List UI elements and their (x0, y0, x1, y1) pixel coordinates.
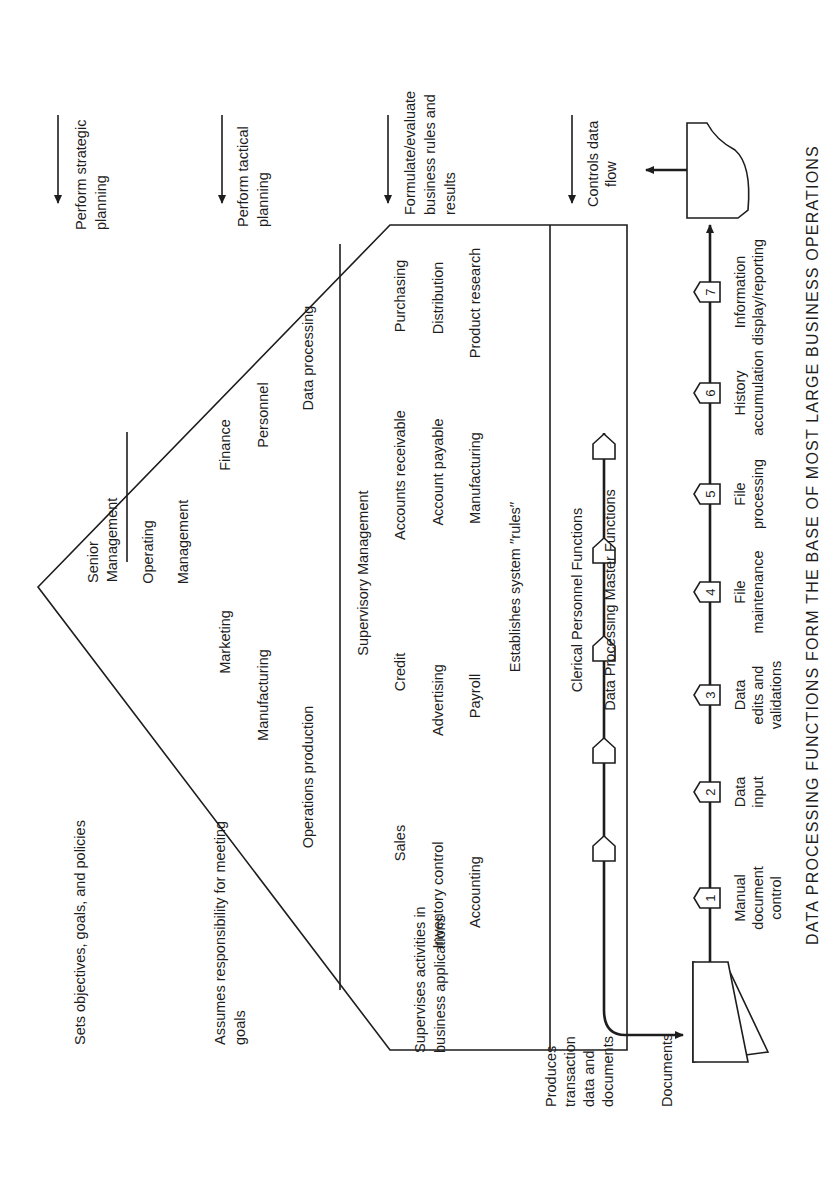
sup-item-purchasing: Purchasing (392, 260, 408, 333)
svg-text:4: 4 (703, 588, 718, 595)
svg-text:display/reporting: display/reporting (750, 239, 766, 345)
op-item-finance: Finance (217, 419, 233, 471)
desc-rules-1: Formulate/evaluate (402, 91, 418, 215)
pyramid-outline (38, 225, 627, 1050)
svg-text:validations: validations (768, 661, 784, 730)
desc-senior: Sets objectives, goals, and policies (72, 820, 88, 1045)
senior-title-1: Senior (85, 541, 101, 583)
desc-supervisory-2: business applications (432, 915, 448, 1053)
op-item-manufacturing: Manufacturing (255, 649, 271, 741)
desc-operating-2: goals (232, 1010, 248, 1045)
clerical-title: Clerical Personnel Functions (569, 508, 585, 693)
svg-text:Manual: Manual (732, 874, 748, 922)
operating-title-2: Management (175, 500, 191, 585)
operating-title-1: Operating (140, 520, 156, 584)
svg-text:5: 5 (703, 490, 718, 497)
sup-item-payroll: Payroll (467, 674, 483, 718)
supervisory-title: Supervisory Management (355, 490, 371, 655)
op-item-marketing: Marketing (217, 610, 233, 674)
op-item-operations-production: Operations production (300, 706, 316, 849)
sup-item-accounts-receivable: Accounts receivable (392, 410, 408, 540)
process-step-2: 2 Data input (694, 776, 766, 808)
diagram-canvas: Senior Management Operating Management M… (0, 0, 835, 1200)
svg-text:input: input (750, 776, 766, 807)
sup-item-advertising: Advertising (430, 664, 446, 736)
rules-note: Establishes system ′′rules′′ (507, 502, 523, 673)
dp-master-title: Data Processing Master Functions (602, 489, 618, 711)
desc-clerical-1: Produces (543, 1046, 559, 1107)
desc-strategic-1: Perform strategic (73, 120, 89, 230)
desc-rules-2: business rules and (422, 94, 438, 215)
desc-tactical-1: Perform tactical (235, 126, 251, 227)
desc-control-1: Controls data (585, 120, 601, 207)
sup-item-account-payable: Account payable (430, 418, 446, 525)
desc-supervisory-1: Supervises activities in (412, 906, 428, 1053)
sup-item-product-research: Product research (467, 248, 483, 358)
desc-operating-1: Assumes responsibility for meeting (212, 821, 228, 1045)
svg-text:7: 7 (703, 288, 718, 295)
svg-text:maintenance: maintenance (750, 550, 766, 633)
svg-text:control: control (768, 876, 784, 920)
svg-text:edits and: edits and (750, 666, 766, 725)
desc-rules-3: results (442, 172, 458, 215)
desc-strategic-2: planning (93, 175, 109, 230)
process-step-6: 6 History accumulation (694, 350, 766, 435)
sup-item-credit: Credit (392, 653, 408, 692)
sup-item-sales: Sales (392, 825, 408, 861)
sup-item-distribution: Distribution (430, 262, 446, 335)
svg-text:processing: processing (750, 459, 766, 529)
svg-text:File: File (732, 482, 748, 505)
svg-text:2: 2 (703, 788, 718, 795)
svg-text:History: History (732, 370, 748, 416)
business-operations-diagram: Senior Management Operating Management M… (0, 0, 835, 1200)
svg-text:6: 6 (703, 389, 718, 396)
svg-text:Data: Data (732, 776, 748, 808)
sup-item-accounting: Accounting (467, 856, 483, 928)
rotated-figure: Senior Management Operating Management M… (38, 91, 821, 1107)
figure-caption: DATA PROCESSING FUNCTIONS FORM THE BASE … (804, 145, 821, 945)
process-step-7: 7 Information display/reporting (694, 239, 766, 345)
desc-clerical-3: data and (581, 1051, 597, 1107)
svg-text:accumulation: accumulation (750, 350, 766, 435)
sup-item-manufacturing: Manufacturing (467, 432, 483, 524)
senior-title-2: Management (104, 498, 120, 583)
process-step-3: 3 Data edits and validations (694, 661, 784, 730)
process-step-5: 5 File processing (694, 459, 766, 529)
svg-text:3: 3 (703, 691, 718, 698)
svg-text:document: document (750, 866, 766, 930)
desc-documents: Documents (659, 1034, 675, 1107)
display-document-shape (687, 123, 749, 218)
process-steps: 1 Manual document control 2 Data input 3… (694, 239, 784, 930)
desc-tactical-2: planning (255, 172, 271, 227)
svg-text:Data: Data (732, 679, 748, 711)
svg-text:1: 1 (703, 894, 718, 901)
op-item-personnel: Personnel (255, 382, 271, 447)
process-step-4: 4 File maintenance (694, 550, 766, 633)
op-item-data-processing: Data processing (300, 306, 316, 411)
desc-control-2: flow (603, 161, 619, 187)
svg-text:Information: Information (732, 256, 748, 329)
svg-text:File: File (732, 580, 748, 603)
process-step-1: 1 Manual document control (694, 866, 784, 930)
desc-clerical-4: documents (600, 1036, 616, 1107)
desc-clerical-2: transaction (562, 1036, 578, 1107)
